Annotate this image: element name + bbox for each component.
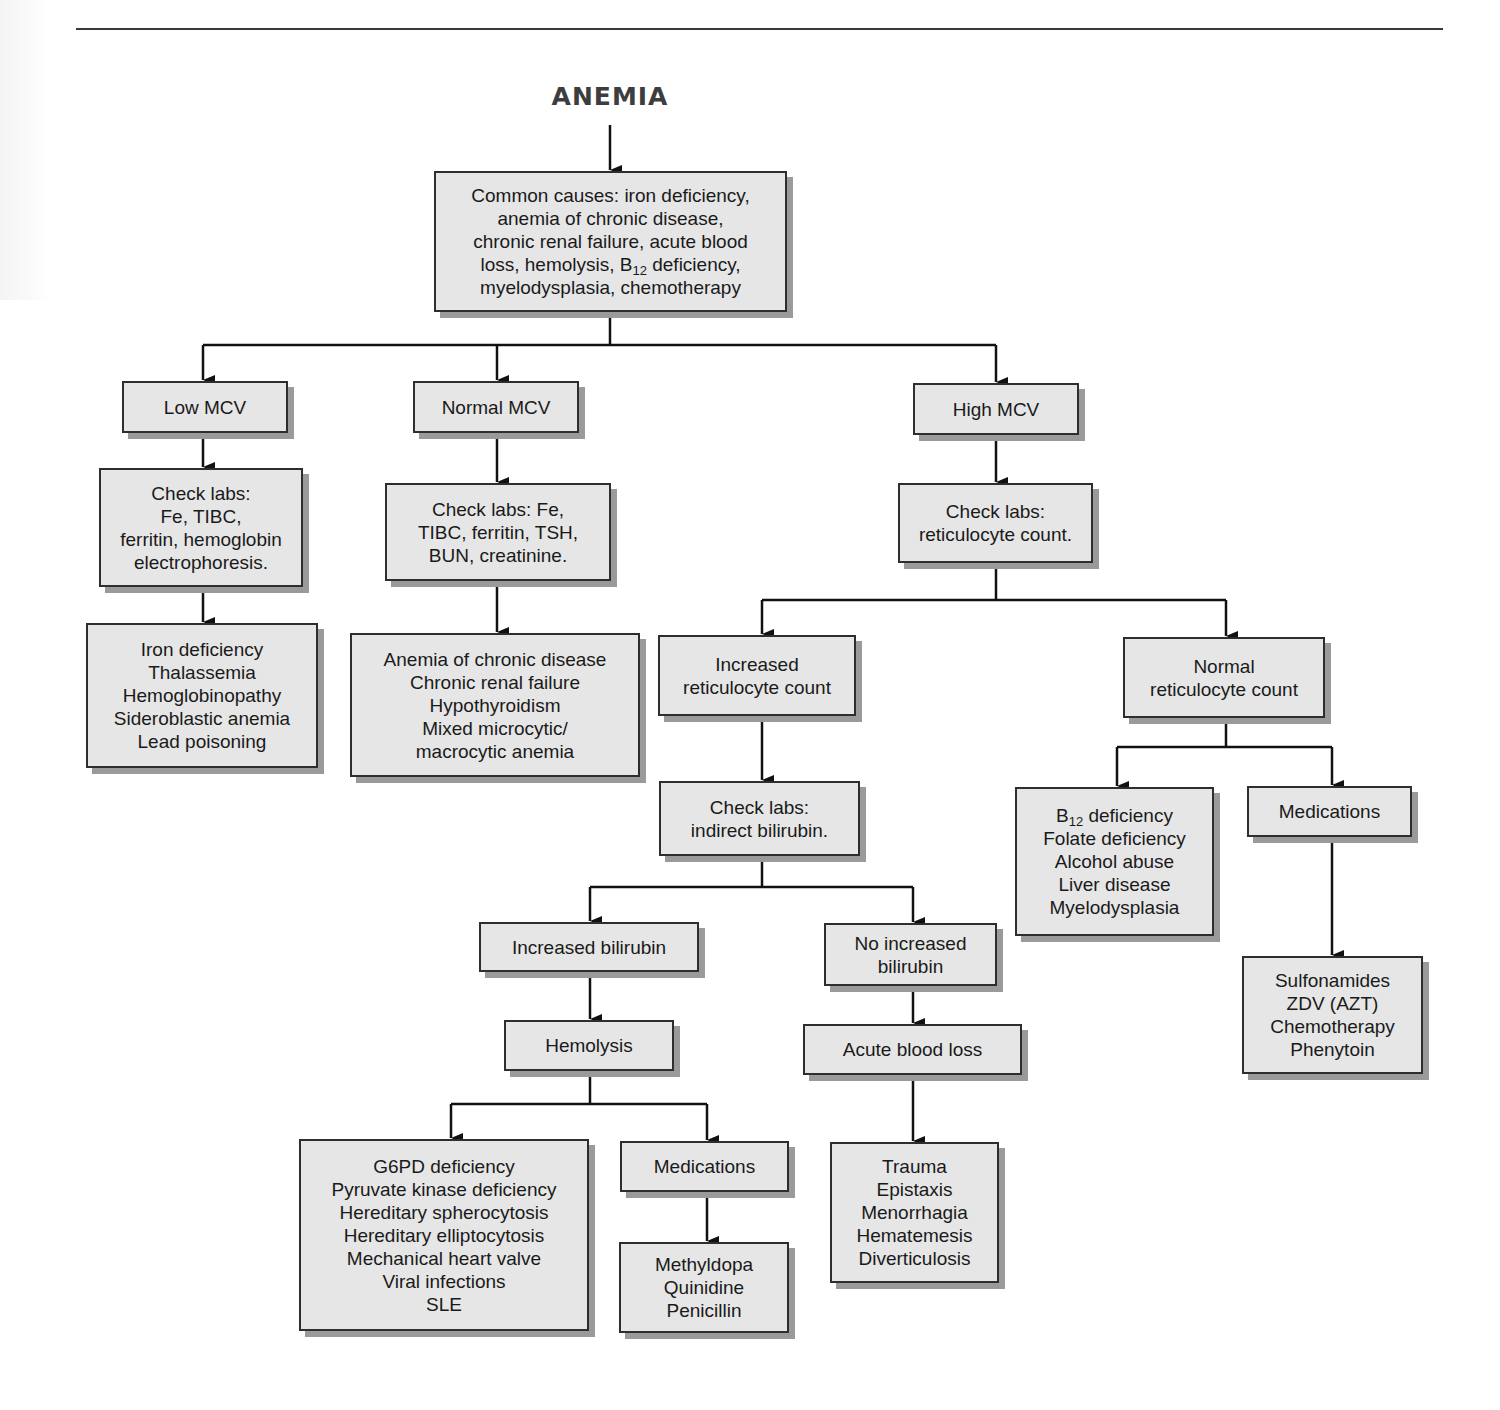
low-mcv-label: Low MCV [164, 396, 246, 419]
hemolysis-medications-box: Medications [620, 1141, 789, 1192]
text-line: Liver disease [1059, 873, 1171, 896]
text-line: reticulocyte count [683, 676, 831, 699]
text-line: Quinidine [664, 1276, 744, 1299]
text-line: Myelodysplasia [1050, 896, 1180, 919]
normal-retic-causes-box: B12 deficiencyFolate deficiencyAlcohol a… [1015, 787, 1214, 936]
text-line: Normal [1193, 655, 1254, 678]
text-line: Check labs: [710, 796, 809, 819]
normal-reticulocyte-box: Normalreticulocyte count [1123, 637, 1325, 718]
text-line: Methyldopa [655, 1253, 753, 1276]
blood-loss-causes-box: TraumaEpistaxisMenorrhagiaHematemesisDiv… [830, 1142, 999, 1283]
text-line: Common causes: iron deficiency, [471, 184, 749, 207]
high-mcv-label: High MCV [953, 398, 1040, 421]
text-line: anemia of chronic disease, [497, 207, 723, 230]
increased-reticulocyte-box: Increasedreticulocyte count [658, 635, 856, 716]
text-line: Thalassemia [148, 661, 256, 684]
text-line: ZDV (AZT) [1287, 992, 1379, 1015]
text-line: Hypothyroidism [430, 694, 561, 717]
normal-retic-medications-box: Medications [1247, 786, 1412, 837]
text-line: loss, hemolysis, B12 deficiency, [480, 253, 740, 276]
low-mcv-causes-box: Iron deficiencyThalassemiaHemoglobinopat… [86, 623, 318, 768]
text-line: Hereditary elliptocytosis [344, 1224, 545, 1247]
text-line: Phenytoin [1290, 1038, 1375, 1061]
acute-blood-loss-label: Acute blood loss [843, 1038, 982, 1061]
text-line: Alcohol abuse [1055, 850, 1174, 873]
hemolysis-medications-label: Medications [654, 1155, 755, 1178]
increased-bilirubin-label: Increased bilirubin [512, 936, 666, 959]
low-mcv-box: Low MCV [122, 381, 288, 433]
text-line: Mechanical heart valve [347, 1247, 541, 1270]
text-line: Fe, TIBC, [161, 505, 242, 528]
hemolysis-box: Hemolysis [504, 1020, 674, 1071]
text-line: Increased [715, 653, 798, 676]
text-line: Check labs: Fe, [432, 498, 564, 521]
text-line: Folate deficiency [1043, 827, 1186, 850]
increased-bilirubin-box: Increased bilirubin [479, 922, 699, 972]
text-line: indirect bilirubin. [691, 819, 828, 842]
text-line: reticulocyte count. [919, 523, 1072, 546]
normal-retic-medications-label: Medications [1279, 800, 1380, 823]
text-line: SLE [426, 1293, 462, 1316]
text-line: chronic renal failure, acute blood [473, 230, 748, 253]
text-line: Lead poisoning [138, 730, 267, 753]
indirect-bilirubin-labs-box: Check labs:indirect bilirubin. [659, 781, 860, 856]
text-line: Sulfonamides [1275, 969, 1390, 992]
high-mcv-labs-box: Check labs:reticulocyte count. [898, 483, 1093, 563]
text-line: Pyruvate kinase deficiency [332, 1178, 557, 1201]
normal-retic-medication-list-box: SulfonamidesZDV (AZT)ChemotherapyPhenyto… [1242, 956, 1423, 1074]
text-line: bilirubin [878, 955, 943, 978]
normal-mcv-label: Normal MCV [442, 396, 551, 419]
hemolysis-causes-box: G6PD deficiencyPyruvate kinase deficienc… [299, 1139, 589, 1331]
no-increased-bilirubin-box: No increasedbilirubin [824, 923, 997, 986]
text-line: Chronic renal failure [410, 671, 580, 694]
text-line: B12 deficiency [1056, 804, 1173, 827]
text-line: Diverticulosis [859, 1247, 971, 1270]
hemolysis-medication-list-box: MethyldopaQuinidinePenicillin [619, 1242, 789, 1333]
text-line: Epistaxis [876, 1178, 952, 1201]
text-line: TIBC, ferritin, TSH, [418, 521, 578, 544]
text-line: electrophoresis. [134, 551, 268, 574]
normal-mcv-causes-box: Anemia of chronic diseaseChronic renal f… [350, 633, 640, 777]
text-line: Hemoglobinopathy [123, 684, 281, 707]
text-line: reticulocyte count [1150, 678, 1298, 701]
text-line: No increased [855, 932, 967, 955]
text-line: Trauma [882, 1155, 947, 1178]
text-line: G6PD deficiency [373, 1155, 515, 1178]
normal-mcv-box: Normal MCV [413, 381, 579, 433]
text-line: myelodysplasia, chemotherapy [480, 276, 741, 299]
text-line: Penicillin [667, 1299, 742, 1322]
text-line: Sideroblastic anemia [114, 707, 290, 730]
text-line: Menorrhagia [861, 1201, 968, 1224]
normal-mcv-labs-box: Check labs: Fe,TIBC, ferritin, TSH,BUN, … [385, 483, 611, 581]
root-common-causes-box: Common causes: iron deficiency,anemia of… [434, 171, 787, 312]
text-line: Viral infections [382, 1270, 505, 1293]
text-line: macrocytic anemia [416, 740, 574, 763]
text-line: Hereditary spherocytosis [339, 1201, 548, 1224]
acute-blood-loss-box: Acute blood loss [803, 1024, 1022, 1075]
text-line: Hematemesis [856, 1224, 972, 1247]
high-mcv-box: High MCV [913, 383, 1079, 435]
text-line: Anemia of chronic disease [384, 648, 607, 671]
hemolysis-label: Hemolysis [545, 1034, 633, 1057]
text-line: Check labs: [946, 500, 1045, 523]
text-line: Iron deficiency [141, 638, 264, 661]
text-line: ferritin, hemoglobin [120, 528, 282, 551]
text-line: Chemotherapy [1270, 1015, 1395, 1038]
text-line: BUN, creatinine. [429, 544, 567, 567]
text-line: Mixed microcytic/ [422, 717, 568, 740]
text-line: Check labs: [151, 482, 250, 505]
low-mcv-labs-box: Check labs:Fe, TIBC,ferritin, hemoglobin… [99, 468, 303, 587]
